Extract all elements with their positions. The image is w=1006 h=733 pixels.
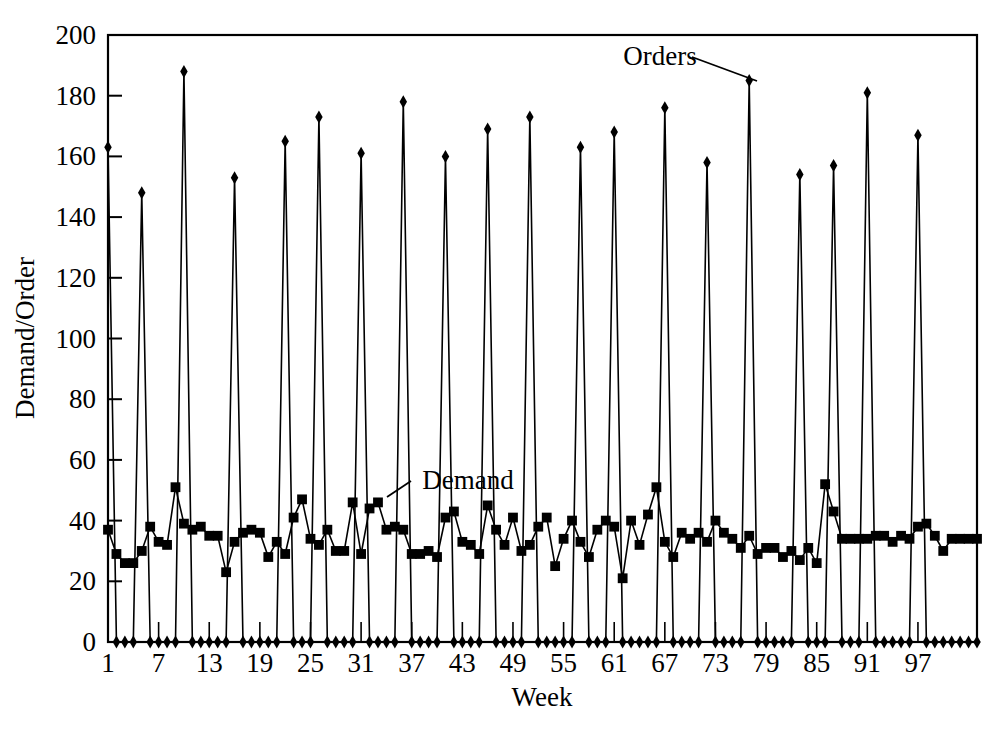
marker-orders-w95 xyxy=(897,636,904,649)
annotation-orders-label: Orders xyxy=(623,41,696,71)
marker-orders-w8 xyxy=(163,636,170,649)
marker-orders-w1 xyxy=(104,141,111,154)
x-tick-label-67: 67 xyxy=(651,648,678,678)
marker-demand-w44 xyxy=(466,540,476,550)
marker-orders-w80 xyxy=(771,636,778,649)
marker-orders-w46 xyxy=(484,123,491,136)
marker-demand-w39 xyxy=(424,546,434,556)
marker-orders-w21 xyxy=(273,636,280,649)
x-tick-label-85: 85 xyxy=(803,648,830,678)
marker-demand-w85 xyxy=(812,558,822,568)
marker-orders-w70 xyxy=(686,636,693,649)
marker-orders-w48 xyxy=(501,636,508,649)
y-tick-label-120: 120 xyxy=(56,263,97,293)
marker-orders-w51 xyxy=(526,110,533,123)
marker-demand-w52 xyxy=(533,522,543,532)
marker-orders-w103 xyxy=(965,636,972,649)
marker-orders-w73 xyxy=(712,636,719,649)
marker-demand-w57 xyxy=(576,537,586,547)
marker-orders-w102 xyxy=(956,636,963,649)
marker-demand-w16 xyxy=(230,537,240,547)
marker-orders-w75 xyxy=(729,636,736,649)
marker-orders-w28 xyxy=(332,636,339,649)
x-tick-label-43: 43 xyxy=(449,648,476,678)
marker-orders-w41 xyxy=(442,150,449,163)
marker-demand-w26 xyxy=(314,540,324,550)
x-tick-label-31: 31 xyxy=(348,648,375,678)
marker-orders-w50 xyxy=(518,636,525,649)
marker-orders-w74 xyxy=(720,636,727,649)
marker-orders-w94 xyxy=(889,636,896,649)
marker-demand-w84 xyxy=(803,543,813,553)
marker-demand-w25 xyxy=(306,534,316,544)
y-axis-title: Demand/Order xyxy=(10,257,40,419)
marker-demand-w96 xyxy=(905,534,915,544)
marker-demand-w83 xyxy=(795,555,805,565)
marker-orders-w97 xyxy=(914,129,921,142)
marker-demand-w93 xyxy=(879,531,889,541)
marker-demand-w62 xyxy=(618,573,628,583)
marker-demand-w101 xyxy=(947,534,957,544)
marker-demand-w78 xyxy=(753,549,763,559)
marker-demand-w27 xyxy=(322,525,332,535)
marker-orders-w44 xyxy=(467,636,474,649)
x-tick-label-91: 91 xyxy=(854,648,881,678)
marker-demand-w76 xyxy=(736,543,746,553)
marker-demand-w87 xyxy=(829,507,839,517)
marker-orders-w92 xyxy=(872,636,879,649)
marker-orders-w81 xyxy=(779,636,786,649)
marker-orders-w53 xyxy=(543,636,550,649)
marker-demand-w54 xyxy=(550,561,560,571)
marker-orders-w36 xyxy=(400,95,407,108)
marker-orders-w16 xyxy=(231,171,238,184)
marker-orders-w43 xyxy=(459,636,466,649)
marker-demand-w24 xyxy=(297,494,307,504)
annotation-demand-label: Demand xyxy=(422,465,514,495)
marker-orders-w76 xyxy=(737,636,744,649)
y-tick-label-60: 60 xyxy=(69,445,96,475)
marker-demand-w60 xyxy=(601,516,611,526)
marker-demand-w69 xyxy=(677,528,687,538)
marker-demand-w70 xyxy=(685,534,695,544)
marker-orders-w68 xyxy=(670,636,677,649)
marker-orders-w40 xyxy=(433,636,440,649)
marker-demand-w17 xyxy=(238,528,248,538)
series-demand xyxy=(103,479,982,583)
marker-orders-w47 xyxy=(492,636,499,649)
marker-orders-w100 xyxy=(940,636,947,649)
marker-orders-w19 xyxy=(256,636,263,649)
marker-demand-w35 xyxy=(390,522,400,532)
marker-demand-w34 xyxy=(382,525,392,535)
plot-frame xyxy=(108,35,977,642)
marker-demand-w50 xyxy=(517,546,527,556)
marker-demand-w2 xyxy=(112,549,122,559)
x-tick-label-19: 19 xyxy=(246,648,273,678)
marker-orders-w27 xyxy=(324,636,331,649)
marker-demand-w8 xyxy=(162,540,172,550)
marker-orders-w55 xyxy=(560,636,567,649)
marker-demand-w41 xyxy=(441,513,451,523)
marker-demand-w80 xyxy=(770,543,780,553)
marker-orders-w84 xyxy=(805,636,812,649)
marker-demand-w100 xyxy=(938,546,948,556)
marker-demand-w49 xyxy=(508,513,518,523)
series-orders-line xyxy=(108,71,977,642)
marker-orders-w62 xyxy=(619,636,626,649)
marker-demand-w61 xyxy=(609,522,619,532)
marker-orders-w18 xyxy=(248,636,255,649)
marker-demand-w102 xyxy=(955,534,965,544)
marker-demand-w23 xyxy=(289,513,299,523)
marker-orders-w78 xyxy=(754,636,761,649)
marker-demand-w75 xyxy=(727,534,737,544)
marker-orders-w2 xyxy=(113,636,120,649)
marker-orders-w4 xyxy=(130,636,137,649)
marker-demand-w15 xyxy=(221,567,231,577)
marker-demand-w10 xyxy=(179,519,189,529)
marker-orders-w72 xyxy=(703,156,710,169)
marker-orders-w82 xyxy=(788,636,795,649)
x-tick-label-1: 1 xyxy=(101,648,115,678)
marker-orders-w34 xyxy=(383,636,390,649)
marker-orders-w30 xyxy=(349,636,356,649)
marker-demand-w45 xyxy=(474,549,484,559)
marker-orders-w83 xyxy=(796,168,803,181)
